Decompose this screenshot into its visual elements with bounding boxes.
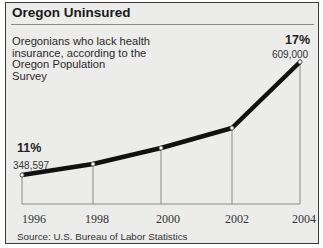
x-tick-1996: 1996: [22, 212, 46, 227]
start-percent-label: 11%: [17, 141, 41, 155]
x-tick-2002: 2002: [225, 212, 249, 227]
end-percent-label: 17%: [285, 33, 310, 47]
start-value-label: 348,597: [13, 160, 49, 171]
data-point: [230, 126, 234, 130]
data-point: [20, 173, 24, 177]
data-point: [91, 162, 95, 166]
end-value-label: 609,000: [272, 49, 308, 60]
data-point: [298, 60, 302, 64]
source-note: Source: U.S. Bureau of Labor Statistics: [17, 231, 187, 242]
x-tick-2004: 2004: [292, 212, 316, 227]
x-tick-2000: 2000: [156, 212, 180, 227]
data-point: [159, 146, 163, 150]
line-plot: [0, 0, 323, 248]
x-tick-1998: 1998: [85, 212, 109, 227]
